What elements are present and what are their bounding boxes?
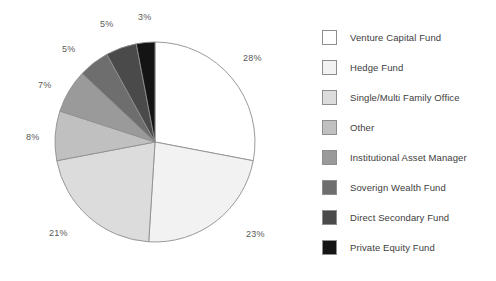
pie-slice-percentage-label: 3% (138, 12, 151, 22)
chart-legend: Venture Capital FundHedge FundSingle/Mul… (322, 22, 496, 262)
pie-slice-percentage-label: 23% (246, 229, 265, 239)
legend-item: Institutional Asset Manager (322, 142, 496, 172)
pie-slice-percentage-label: 21% (49, 228, 68, 238)
pie-slice-percentage-label: 5% (62, 44, 75, 54)
pie-slice-percentage-label: 5% (100, 19, 113, 29)
legend-item: Hedge Fund (322, 52, 496, 82)
legend-color-swatch (322, 210, 337, 225)
legend-item: Other (322, 112, 496, 142)
pie-slice-percentage-label: 8% (26, 132, 39, 142)
chart-canvas: 28%23%21%8%7%5%5%3% Venture Capital Fund… (0, 0, 496, 281)
legend-item: Direct Secondary Fund (322, 202, 496, 232)
legend-color-swatch (322, 180, 337, 195)
pie-slice (155, 42, 255, 161)
pie-slice-percentage-label: 7% (38, 80, 51, 90)
legend-color-swatch (322, 240, 337, 255)
legend-item-label: Private Equity Fund (350, 242, 435, 253)
pie-slice-group (55, 42, 255, 242)
legend-color-swatch (322, 120, 337, 135)
legend-item: Single/Multi Family Office (322, 82, 496, 112)
legend-item-label: Venture Capital Fund (350, 32, 441, 43)
legend-color-swatch (322, 30, 337, 45)
legend-item-label: Soverign Wealth Fund (350, 182, 446, 193)
legend-color-swatch (322, 90, 337, 105)
legend-item: Private Equity Fund (322, 232, 496, 262)
legend-item: Soverign Wealth Fund (322, 172, 496, 202)
legend-item-label: Single/Multi Family Office (350, 92, 460, 103)
legend-item-label: Institutional Asset Manager (350, 152, 467, 163)
legend-item-label: Direct Secondary Fund (350, 212, 449, 223)
legend-item: Venture Capital Fund (322, 22, 496, 52)
legend-color-swatch (322, 150, 337, 165)
pie-slice-percentage-label: 28% (243, 53, 262, 63)
legend-item-label: Other (350, 122, 374, 133)
legend-color-swatch (322, 60, 337, 75)
legend-item-label: Hedge Fund (350, 62, 403, 73)
pie-chart-area: 28%23%21%8%7%5%5%3% (0, 0, 310, 281)
